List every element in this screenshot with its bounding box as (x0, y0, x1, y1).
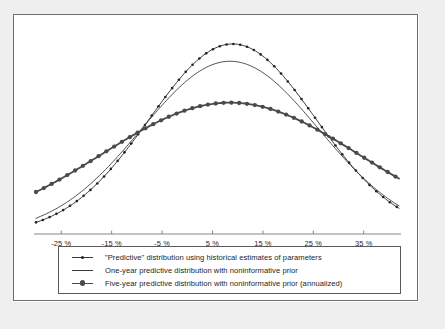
series-line-0 (36, 44, 399, 222)
legend-label-five-year: Five-year predictive distribution with n… (105, 279, 342, 288)
series-line-2 (36, 103, 399, 192)
x-axis (34, 231, 401, 235)
legend-item-five-year[interactable]: Five-year predictive distribution with n… (59, 277, 400, 290)
small-dot-marker-icon (81, 256, 84, 259)
legend-item-one-year[interactable]: One-year predictive distribution with no… (59, 264, 400, 277)
large-dot-marker-icon (80, 280, 85, 285)
chart-legend: "Predictive" distribution using historic… (58, 246, 401, 294)
figure-card: -25 %-15 %-5 %5 %15 %25 %35 % "Predictiv… (13, 14, 419, 302)
legend-item-predictive[interactable]: "Predictive" distribution using historic… (59, 251, 400, 264)
curves-group (34, 43, 399, 224)
legend-swatch-plain-line (59, 264, 105, 277)
legend-label-one-year: One-year predictive distribution with no… (105, 266, 298, 275)
series-markers-2 (34, 101, 398, 195)
figure-page: -25 %-15 %-5 %5 %15 %25 %35 % "Predictiv… (0, 0, 445, 329)
series-line-1 (36, 61, 399, 218)
legend-label-predictive: "Predictive" distribution using historic… (105, 253, 322, 262)
legend-rows: "Predictive" distribution using historic… (59, 251, 400, 290)
legend-swatch-large-marker-line (59, 277, 105, 290)
series-markers-0 (35, 43, 398, 224)
line-icon (72, 270, 93, 271)
legend-swatch-small-marker-line (59, 251, 105, 264)
plot-frame: -25 %-15 %-5 %5 %15 %25 %35 % "Predictiv… (13, 14, 418, 301)
